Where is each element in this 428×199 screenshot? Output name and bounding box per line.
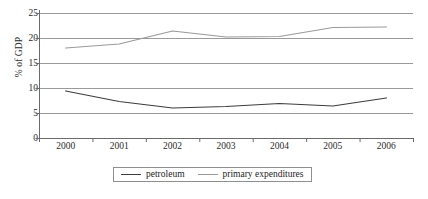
- x-tick-label: 2004: [253, 140, 305, 152]
- chart-figure: % of GDP 0510152025 20002001200220032004…: [0, 0, 428, 199]
- x-tick-label: 2000: [40, 140, 92, 152]
- series-line-primary-expenditures: [66, 27, 387, 48]
- x-tick-label: 2002: [147, 140, 199, 152]
- chart-legend: petroleumprimary expenditures: [113, 167, 312, 182]
- legend-label: petroleum: [146, 169, 185, 180]
- legend-item: petroleum: [121, 169, 185, 180]
- legend-line-swatch: [198, 174, 218, 175]
- legend-line-swatch: [121, 174, 141, 175]
- x-tick-label: 2001: [93, 140, 145, 152]
- legend-item: primary expenditures: [198, 169, 304, 180]
- x-axis-tick-labels: 2000200120022003200420052006: [0, 140, 428, 156]
- legend-label: primary expenditures: [223, 169, 304, 180]
- x-tick-label: 2006: [360, 140, 412, 152]
- x-tick-label: 2005: [307, 140, 359, 152]
- series-line-petroleum: [66, 91, 387, 108]
- x-tick-label: 2003: [200, 140, 252, 152]
